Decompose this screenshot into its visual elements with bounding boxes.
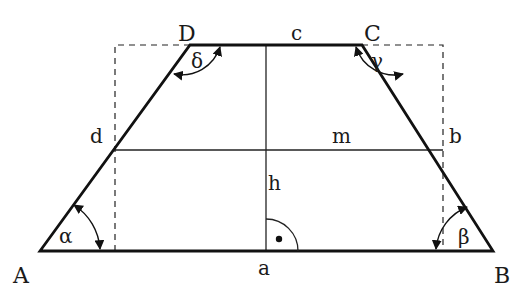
vertex-label-D: D [178, 21, 196, 46]
vertex-label-A: A [12, 263, 30, 288]
vertex-label-C: C [364, 21, 381, 46]
angle-arc-alpha [74, 205, 100, 249]
side-label-b: b [449, 124, 462, 148]
dashed-construction-lines [115, 45, 443, 251]
side-label-d: d [90, 124, 103, 148]
trapezoid-diagram: A B C D a b c d m h α β γ δ [0, 0, 526, 307]
right-angle-arc [266, 219, 298, 251]
angle-label-alpha: α [59, 224, 73, 248]
angle-label-beta: β [458, 225, 470, 249]
vertex-label-B: B [494, 263, 510, 288]
right-angle-dot [276, 236, 282, 242]
midline-label-m: m [332, 124, 351, 148]
angle-label-gamma: γ [371, 49, 383, 73]
height-label-h: h [268, 171, 281, 195]
side-label-a: a [258, 256, 270, 280]
angle-label-delta: δ [191, 49, 203, 73]
side-label-c: c [291, 21, 302, 45]
